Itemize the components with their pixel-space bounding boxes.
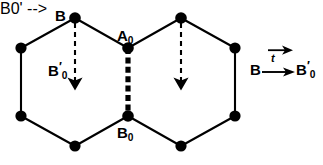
label-b0-bottom: B0 [117,125,134,140]
label-b0-prime-base: B [48,62,59,79]
vertex-top-left-b [69,12,81,24]
vertex-center-lower-b0 [122,110,134,122]
edge-left-upper-to-top-left [21,18,75,48]
edge-left-lower-to-bottom-left [21,116,75,146]
edge-top-right-to-right-upper [181,18,235,48]
right-arrow-icon [262,66,296,78]
legend-target-subscript: 0 [310,69,316,80]
mapping-legend: B t B′0 [248,44,323,90]
legend-source-label: B [250,62,261,77]
label-a0-subscript: 0 [128,35,134,46]
vertex-bottom-right [175,140,186,151]
edge-bottom-right-to-b0 [128,116,181,146]
legend-target-base: B [296,61,307,78]
label-b-top: B [55,8,66,23]
honeycomb-lattice-figure: B A0 B′0 B0 B0' --> B t B′0 [0,0,323,165]
edge-right-lower-to-bottom-right [181,116,235,146]
vertex-left-lower [15,110,26,121]
edge-a0-to-top-right [128,18,181,48]
label-b0-bottom-subscript: 0 [128,132,134,143]
vertex-right-lower [229,110,240,121]
vertex-right-upper [229,42,240,53]
legend-target-label: B′0 [296,62,315,77]
label-a0-base: A [117,27,128,44]
legend-operator-base: t [271,52,275,64]
label-b0-bottom-base: B [117,124,128,141]
vertex-left-upper [15,42,26,53]
label-a0: A0 [117,28,134,43]
legend-source-base: B [250,61,261,78]
label-b-top-base: B [55,7,66,24]
vertex-bottom-left [69,140,80,151]
label-b0-prime: B′0 [48,63,67,78]
legend-operator-label: t [271,53,275,64]
label-b0-prime-subscript: 0 [62,70,68,81]
vertex-top-right [175,12,187,24]
